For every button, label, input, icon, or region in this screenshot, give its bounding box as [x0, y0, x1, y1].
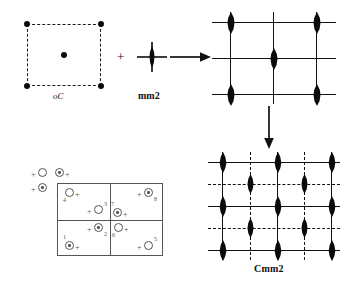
two-fold-axis-icon [244, 174, 257, 194]
gp-point-8-sign: + [137, 191, 142, 199]
top-lattice-diagram [212, 12, 336, 104]
gp-point-5-sign: + [137, 244, 142, 252]
gp-point-2-sign: + [87, 226, 92, 234]
two-fold-axis-icon [216, 196, 230, 217]
gp-point-4-label: 4 [63, 197, 66, 203]
gp-outside-plus-c: + [31, 186, 36, 194]
lattice-node-corner-tl [24, 21, 30, 27]
lattice-node-corner-bl [24, 83, 30, 89]
cmm2-line-h3 [208, 228, 340, 229]
two-fold-axis-icon [216, 152, 230, 173]
gp-point-2-circle [94, 223, 103, 232]
general-position-box: + 4 + 3 + 7 + 8 + 2 + 1 + 6 + 5 [57, 183, 163, 256]
gp-divider-vertical [110, 184, 111, 255]
cmm2-label: Cmm2 [254, 264, 284, 274]
gp-outside-circle-a [38, 168, 47, 177]
gp-point-3-label: 3 [104, 201, 107, 207]
cmm2-lattice-diagram [208, 152, 340, 260]
gp-point-4-circle [65, 188, 74, 197]
two-fold-axis-icon [223, 84, 239, 106]
gp-point-4-sign: + [75, 191, 80, 199]
two-fold-axis-icon [298, 218, 311, 238]
two-fold-axis-icon [271, 152, 285, 173]
lattice-node-center [61, 52, 67, 58]
two-fold-axis-icon [325, 196, 339, 217]
two-fold-axis-icon [309, 84, 325, 106]
arrow-right-icon [170, 50, 212, 68]
gp-outside-plus-b: + [65, 171, 70, 179]
gp-point-1-circle [65, 241, 74, 250]
two-fold-axis-icon [266, 48, 282, 70]
gp-point-7-circle [113, 208, 122, 217]
gp-point-5-label: 5 [154, 236, 157, 242]
gp-point-5-circle [144, 241, 153, 250]
gp-point-3-sign: + [87, 208, 92, 216]
oc-lattice-label: oC [53, 92, 64, 101]
gp-point-6-sign: + [124, 226, 129, 234]
mm2-symbol [135, 40, 169, 78]
two-fold-axis-icon [271, 240, 285, 261]
two-fold-axis-icon [298, 174, 311, 194]
gp-point-3-circle [94, 205, 103, 214]
arrow-down-icon [262, 106, 276, 154]
two-fold-axis-icon [135, 40, 169, 74]
lattice-node-corner-tr [98, 21, 104, 27]
cmm2-line-v3 [304, 152, 305, 260]
lattice-node-corner-br [98, 83, 104, 89]
gp-point-7-sign: + [123, 211, 128, 219]
gp-outside-circle-c [38, 183, 47, 192]
gp-point-8-circle [144, 188, 153, 197]
cmm2-line-h1 [208, 184, 340, 185]
two-fold-axis-icon [216, 240, 230, 261]
two-fold-axis-icon [309, 12, 325, 34]
two-fold-axis-icon [325, 152, 339, 173]
gp-outside-plus-a: + [31, 171, 36, 179]
gp-point-2-label: 2 [104, 231, 107, 237]
figure-canvas: oC + mm2 [0, 0, 354, 289]
gp-point-8-label: 8 [154, 196, 157, 202]
gp-point-6-label: 6 [112, 232, 115, 238]
two-fold-axis-icon [244, 218, 257, 238]
cmm2-line-v1 [250, 152, 251, 260]
gp-point-7-label: 7 [111, 201, 114, 207]
two-fold-axis-icon [271, 196, 285, 217]
gp-point-1-sign: + [75, 244, 80, 252]
gp-point-6-circle [114, 223, 123, 232]
plus-operator: + [117, 50, 124, 63]
gp-point-1-label: 1 [63, 234, 66, 240]
two-fold-axis-icon [223, 12, 239, 34]
mm2-label: mm2 [138, 91, 160, 101]
two-fold-axis-icon [325, 240, 339, 261]
gp-outside-circle-b [55, 168, 64, 177]
